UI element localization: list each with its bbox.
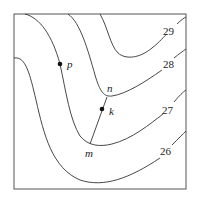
contour-line-29 xyxy=(100,14,167,57)
contour-diagram: 29 28 27 26 p k n m xyxy=(0,0,200,203)
point-k-label: k xyxy=(109,105,115,117)
contour-line-26-tail xyxy=(172,131,186,145)
contour-label-28: 28 xyxy=(163,58,175,70)
contour-label-29: 29 xyxy=(163,25,175,37)
contour-label-26: 26 xyxy=(160,145,172,157)
point-n-label: n xyxy=(107,82,113,94)
contour-line-27 xyxy=(25,14,163,145)
point-m-label: m xyxy=(85,147,93,159)
contour-label-27: 27 xyxy=(162,104,174,116)
contour-line-29-tail xyxy=(177,17,186,24)
segment-m-n xyxy=(90,97,107,144)
contour-line-28 xyxy=(68,14,162,96)
contour-line-26 xyxy=(14,58,160,183)
point-p-label: p xyxy=(66,58,73,70)
contour-line-28-tail xyxy=(174,49,186,58)
contour-line-27-tail xyxy=(174,90,186,102)
point-k-marker xyxy=(100,107,105,112)
point-p-marker xyxy=(58,62,63,67)
